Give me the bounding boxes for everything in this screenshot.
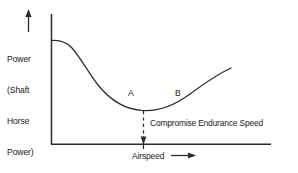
compromise-speed-drop-line (141, 111, 147, 149)
curve-region-label-a: A (128, 88, 134, 98)
compromise-endurance-speed-label: Compromise Endurance Speed (150, 118, 263, 128)
y-axis-label: Power (Shaft Horse Power) (7, 33, 34, 173)
chart-canvas (0, 0, 298, 173)
y-axis-direction-arrow-icon (25, 9, 31, 32)
y-axis-label-line-3: Horse (7, 116, 34, 126)
power-curve-figure: Power (Shaft Horse Power) A B Compromise… (0, 0, 298, 173)
y-axis-label-line-2: (Shaft (7, 85, 34, 95)
x-axis-label: Airspeed (132, 151, 164, 161)
y-axis-label-line-1: Power (7, 54, 34, 64)
y-axis-label-line-4: Power) (7, 147, 34, 157)
curve-region-label-b: B (175, 88, 181, 98)
power-required-curve (52, 40, 231, 110)
x-axis-direction-arrow-icon (171, 152, 196, 158)
